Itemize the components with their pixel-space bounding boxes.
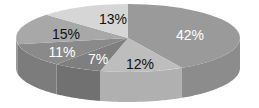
pie-side-1 <box>100 68 182 102</box>
pie-label-4: 15% <box>52 26 80 42</box>
pie-label-1: 12% <box>126 56 154 72</box>
pie-chart-3d: 42%12%7%11%15%13% <box>0 0 259 108</box>
pie-label-3: 11% <box>49 44 76 60</box>
pie-label-2: 7% <box>88 51 108 67</box>
pie-label-5: 13% <box>99 11 127 27</box>
pie-label-0: 42% <box>176 27 204 43</box>
